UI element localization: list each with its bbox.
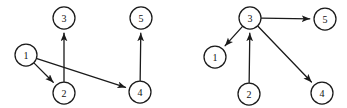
nodes-layer: 1234512345	[15, 7, 336, 105]
node-label: 3	[248, 13, 253, 24]
graph-node[interactable]: 5	[130, 7, 152, 29]
graph-node[interactable]: 5	[314, 8, 336, 30]
graph-edge	[37, 59, 126, 88]
graph-edge	[258, 26, 312, 82]
graph-figure: 1234512345	[0, 0, 347, 108]
node-label: 4	[138, 87, 143, 98]
graph-edge	[140, 33, 141, 80]
graph-edge	[225, 27, 242, 46]
graph-edge	[249, 33, 250, 82]
graph-node[interactable]: 1	[204, 46, 226, 68]
edges-layer	[34, 18, 311, 87]
graph-edge	[34, 63, 53, 82]
node-label: 2	[247, 89, 252, 100]
node-label: 2	[62, 88, 67, 99]
graph-node[interactable]: 3	[53, 7, 75, 29]
graph-node[interactable]: 4	[311, 82, 333, 104]
graph-node[interactable]: 1	[15, 44, 37, 66]
node-label: 5	[139, 13, 144, 24]
graph-node[interactable]: 2	[53, 82, 75, 104]
graph-canvas: 1234512345	[0, 0, 347, 108]
node-label: 1	[213, 52, 218, 63]
graph-node[interactable]: 2	[238, 83, 260, 105]
node-label: 5	[323, 14, 328, 25]
graph-node[interactable]: 3	[239, 7, 261, 29]
graph-node[interactable]: 4	[129, 81, 151, 103]
node-label: 4	[320, 88, 325, 99]
node-label: 1	[24, 50, 29, 61]
node-label: 3	[62, 13, 67, 24]
graph-edge	[262, 18, 310, 19]
